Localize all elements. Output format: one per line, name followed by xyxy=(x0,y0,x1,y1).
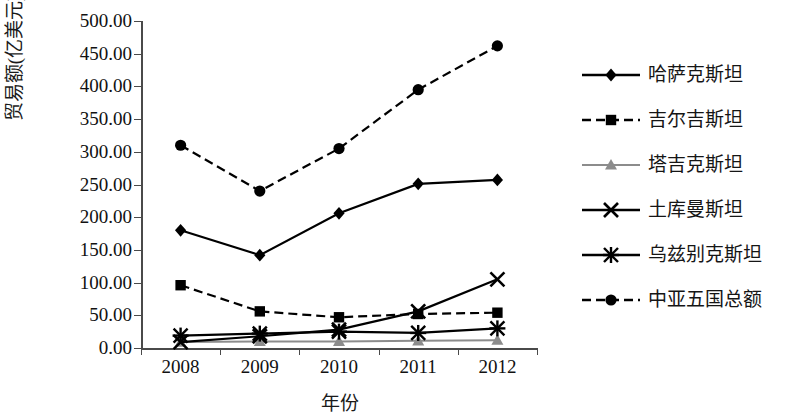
legend-label: 塔吉克斯坦 xyxy=(648,151,743,179)
legend-label: 哈萨克斯坦 xyxy=(648,61,743,89)
data-point-circle xyxy=(492,40,503,51)
y-tick-mark xyxy=(134,283,141,284)
data-point-square xyxy=(492,307,502,317)
data-point-cross xyxy=(490,272,504,286)
legend-symbol-square xyxy=(580,105,642,135)
x-tick-label: 2008 xyxy=(141,356,221,378)
y-tick-label: 300.00 xyxy=(20,142,132,161)
series-plot xyxy=(141,21,537,348)
legend-marker-icon xyxy=(580,240,642,270)
x-tick-mark xyxy=(141,348,142,355)
y-tick-mark xyxy=(134,54,141,55)
legend-marker-icon xyxy=(580,285,642,315)
legend-item-1[interactable]: 吉尔吉斯坦 xyxy=(570,105,785,135)
legend-item-2[interactable]: 塔吉克斯坦 xyxy=(570,150,785,180)
data-point-asterisk xyxy=(603,247,619,263)
x-axis-title: 年份 xyxy=(240,388,440,415)
data-point-square xyxy=(334,312,344,322)
y-tick-mark xyxy=(134,86,141,87)
series-line xyxy=(181,46,498,191)
data-point-diamond xyxy=(333,207,344,220)
y-tick-mark xyxy=(134,119,141,120)
legend-symbol-cross xyxy=(580,195,642,225)
y-tick-label: 100.00 xyxy=(20,273,132,292)
data-point-diamond xyxy=(492,174,503,187)
series-1 xyxy=(175,280,502,322)
legend-marker-icon xyxy=(580,150,642,180)
y-axis-tick-labels: 500.00450.00400.00350.00300.00250.00200.… xyxy=(20,0,132,417)
data-point-asterisk xyxy=(489,320,505,336)
plot-area xyxy=(141,21,537,348)
data-point-circle xyxy=(254,185,265,196)
y-tick-label: 350.00 xyxy=(20,109,132,128)
y-tick-mark xyxy=(134,217,141,218)
y-tick-mark xyxy=(134,315,141,316)
legend-label: 吉尔吉斯坦 xyxy=(648,106,743,134)
x-axis-line xyxy=(141,348,537,350)
y-tick-label: 400.00 xyxy=(20,76,132,95)
legend-symbol-circle xyxy=(580,285,642,315)
legend-label: 中亚五国总额 xyxy=(648,286,762,314)
data-point-asterisk xyxy=(252,326,268,342)
series-0 xyxy=(175,174,503,262)
y-tick-label: 0.00 xyxy=(20,338,132,357)
y-tick-mark xyxy=(134,152,141,153)
y-tick-mark xyxy=(134,185,141,186)
data-point-diamond xyxy=(605,69,616,82)
legend-item-3[interactable]: 土库曼斯坦 xyxy=(570,195,785,225)
legend-symbol-triangle xyxy=(580,150,642,180)
data-point-circle xyxy=(333,143,344,154)
legend-item-5[interactable]: 中亚五国总额 xyxy=(570,285,785,315)
y-tick-label: 250.00 xyxy=(20,175,132,194)
x-tick-label: 2011 xyxy=(378,356,458,378)
x-tick-label: 2012 xyxy=(457,356,537,378)
data-point-square xyxy=(255,306,265,316)
legend-marker-icon xyxy=(580,105,642,135)
series-5 xyxy=(175,40,503,196)
legend-item-4[interactable]: 乌兹别克斯坦 xyxy=(570,240,785,270)
x-tick-mark xyxy=(299,348,300,355)
y-tick-mark xyxy=(134,250,141,251)
y-tick-label: 200.00 xyxy=(20,207,132,226)
y-tick-label: 500.00 xyxy=(20,11,132,30)
chart-root: 贸易额(亿美元) 500.00450.00400.00350.00300.002… xyxy=(0,0,787,417)
legend-symbol-asterisk xyxy=(580,240,642,270)
y-tick-mark xyxy=(134,21,141,22)
data-point-circle xyxy=(413,84,424,95)
data-point-asterisk xyxy=(331,324,347,340)
x-tick-mark xyxy=(537,348,538,355)
data-point-asterisk xyxy=(173,328,189,344)
legend: 哈萨克斯坦吉尔吉斯坦塔吉克斯坦土库曼斯坦乌兹别克斯坦中亚五国总额 xyxy=(570,60,785,330)
y-tick-label: 450.00 xyxy=(20,44,132,63)
data-point-square xyxy=(606,115,616,125)
data-point-square xyxy=(175,280,185,290)
data-point-diamond xyxy=(413,177,424,190)
x-tick-mark xyxy=(379,348,380,355)
y-tick-label: 150.00 xyxy=(20,240,132,259)
y-tick-mark xyxy=(134,348,141,349)
legend-label: 乌兹别克斯坦 xyxy=(648,241,762,269)
legend-label: 土库曼斯坦 xyxy=(648,196,743,224)
legend-item-0[interactable]: 哈萨克斯坦 xyxy=(570,60,785,90)
legend-symbol-diamond xyxy=(580,60,642,90)
x-tick-mark xyxy=(458,348,459,355)
data-point-diamond xyxy=(175,224,186,237)
y-tick-label: 50.00 xyxy=(20,305,132,324)
x-tick-label: 2010 xyxy=(299,356,379,378)
x-tick-mark xyxy=(220,348,221,355)
x-tick-label: 2009 xyxy=(220,356,300,378)
data-point-asterisk xyxy=(410,325,426,341)
data-point-diamond xyxy=(254,249,265,262)
legend-marker-icon xyxy=(580,195,642,225)
legend-marker-icon xyxy=(580,60,642,90)
data-point-circle xyxy=(175,140,186,151)
data-point-circle xyxy=(605,294,616,305)
